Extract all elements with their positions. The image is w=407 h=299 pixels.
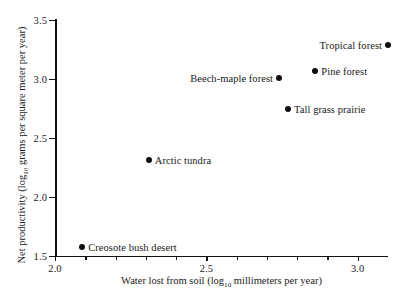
data-point-label: Beech-maple forest [190,72,273,83]
data-point-label: Tall grass prairie [294,103,365,114]
scatter-plot-figure: 1.52.02.53.03.5 2.02.53.0 Creosote bush … [0,0,407,299]
x-tick-mark-minor [297,256,298,260]
data-point [385,42,391,48]
x-tick-mark [358,256,359,261]
plot-area: 1.52.02.53.03.5 2.02.53.0 Creosote bush … [55,20,388,256]
x-axis-title-subscript: 10 [224,281,231,289]
data-point [285,106,291,112]
x-axis-title: Water lost from soil (log10 millimeters … [55,275,388,289]
data-point-label: Creosote bush desert [88,241,176,252]
data-point [312,68,318,74]
data-point-label: Tropical forest [320,39,382,50]
x-tick-mark-minor [327,256,328,260]
y-tick-label: 3.0 [34,74,47,85]
y-tick-label: 3.5 [34,15,47,26]
y-tick-mark [49,197,55,198]
y-tick-mark [49,138,55,139]
x-tick-mark [55,256,56,261]
data-point [146,157,152,163]
data-point [276,75,282,81]
data-point [79,244,85,250]
x-tick-mark [206,256,207,261]
y-tick-label: 2.5 [34,133,47,144]
x-tick-mark-minor [146,256,147,260]
y-tick-label: 2.0 [34,192,47,203]
y-tick-label: 1.5 [34,251,47,262]
x-tick-mark-minor [116,256,117,260]
x-tick-label: 3.0 [351,263,364,274]
y-axis-title: Net productivity (log10 grams per square… [16,21,30,269]
y-tick-mark [49,79,55,80]
y-axis-title-subscript: 10 [22,168,30,175]
x-tick-mark-minor [237,256,238,260]
x-tick-mark-minor [85,256,86,260]
x-tick-label: 2.5 [200,263,213,274]
data-point-label: Arctic tundra [155,155,211,166]
y-tick-mark [49,20,55,21]
x-tick-mark-minor [267,256,268,260]
data-point-label: Pine forest [321,65,367,76]
x-tick-mark-minor [176,256,177,260]
x-tick-label: 2.0 [48,263,61,274]
